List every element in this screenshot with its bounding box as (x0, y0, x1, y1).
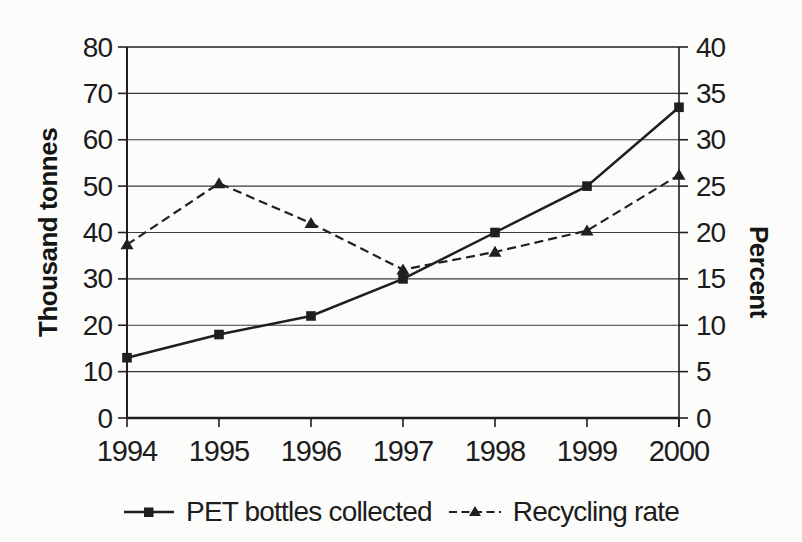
y-axis-right-tick-label: 5 (696, 356, 711, 387)
y-axis-right-tick-label: 30 (696, 124, 726, 155)
line-chart: 0010520103015402050256030703580401994199… (0, 0, 802, 486)
x-axis-tick-label: 1998 (465, 435, 526, 467)
legend-marker-solid-square-icon (123, 503, 175, 521)
legend-item-recycling: Recycling rate (448, 496, 679, 528)
legend: PET bottles collected Recycling rate (0, 489, 802, 535)
x-axis-tick-label: 1995 (189, 435, 250, 467)
pet-marker-square (306, 311, 316, 321)
x-axis-tick-label: 2000 (649, 435, 710, 467)
y-axis-left-tick-label: 30 (83, 263, 113, 294)
recycling-marker-triangle (213, 177, 226, 188)
recycling-marker-triangle (581, 224, 594, 235)
y-axis-right-tick-label: 0 (696, 403, 711, 434)
right-axis-title: Percent (740, 172, 776, 372)
pet-marker-square (122, 353, 132, 363)
legend-label-recycling: Recycling rate (513, 496, 679, 528)
chart-figure: 0010520103015402050256030703580401994199… (0, 0, 802, 542)
recycling-marker-triangle (121, 238, 134, 249)
x-axis-tick-label: 1997 (373, 435, 434, 467)
recycling-marker-triangle (305, 217, 318, 228)
x-axis-tick-label: 1999 (557, 435, 618, 467)
legend-label-pet: PET bottles collected (186, 496, 432, 528)
y-axis-right-tick-label: 15 (696, 263, 726, 294)
pet-marker-square (214, 330, 224, 340)
y-axis-left-tick-label: 40 (83, 217, 113, 248)
y-axis-left-tick-label: 10 (83, 356, 113, 387)
y-axis-right-tick-label: 40 (696, 32, 726, 63)
y-axis-left-tick-label: 80 (83, 32, 113, 63)
recycling-marker-triangle (397, 263, 410, 274)
x-axis-tick-label: 1996 (281, 435, 342, 467)
recycling-marker-triangle (673, 169, 686, 180)
pet-marker-square (674, 102, 684, 112)
y-axis-right-tick-label: 10 (696, 310, 726, 341)
y-axis-right-tick-label: 20 (696, 217, 726, 248)
y-axis-left-tick-label: 60 (83, 124, 113, 155)
pet-marker-square (582, 181, 592, 191)
y-axis-right-tick-label: 35 (696, 78, 726, 109)
y-axis-left-tick-label: 0 (97, 403, 112, 434)
y-axis-right-tick-label: 25 (696, 171, 726, 202)
left-axis-title: Thousand tonnes (30, 122, 66, 342)
legend-item-pet: PET bottles collected (123, 496, 432, 528)
pet-marker-square (398, 274, 408, 284)
pet-marker-square (490, 228, 500, 238)
x-axis-tick-label: 1994 (97, 435, 158, 467)
recycling-series-line (127, 175, 679, 270)
y-axis-left-tick-label: 50 (83, 171, 113, 202)
legend-marker-dashed-triangle-icon (448, 503, 502, 521)
y-axis-left-tick-label: 70 (83, 78, 113, 109)
y-axis-left-tick-label: 20 (83, 310, 113, 341)
